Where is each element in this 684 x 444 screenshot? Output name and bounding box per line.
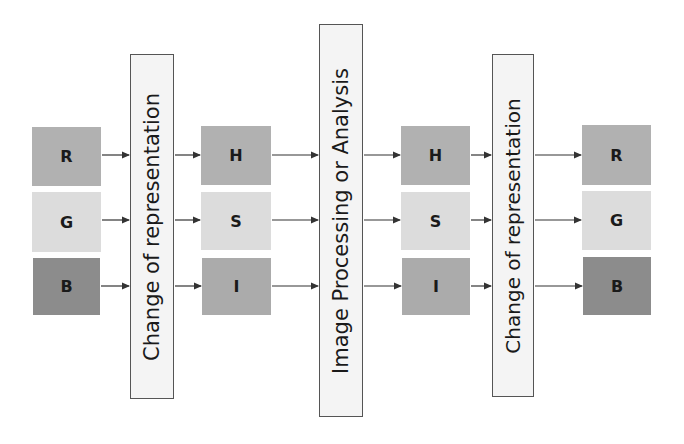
hsi-after-channel-s: S bbox=[401, 192, 470, 250]
input-channel-b: B bbox=[33, 258, 100, 315]
channel-label: G bbox=[610, 211, 623, 230]
stage-3-label: Change of representation bbox=[501, 98, 525, 353]
output-channel-g: G bbox=[582, 191, 651, 250]
channel-label: B bbox=[611, 277, 623, 296]
output-channel-b: B bbox=[583, 257, 651, 315]
image-processing-stage: Image Processing or Analysis bbox=[319, 24, 363, 417]
channel-label: B bbox=[60, 277, 72, 296]
channel-label: R bbox=[60, 147, 72, 166]
stage-2-label: Image Processing or Analysis bbox=[329, 68, 353, 374]
channel-label: H bbox=[229, 146, 242, 165]
channel-label: R bbox=[610, 146, 622, 165]
channel-label: G bbox=[60, 213, 73, 232]
output-channel-r: R bbox=[582, 125, 651, 185]
hsi-after-channel-h: H bbox=[401, 126, 470, 185]
channel-label: I bbox=[433, 277, 439, 296]
hsi-before-channel-s: S bbox=[201, 192, 271, 250]
channel-label: I bbox=[234, 277, 240, 296]
hsi-before-channel-i: I bbox=[202, 258, 271, 315]
hsi-before-channel-h: H bbox=[201, 126, 271, 185]
channel-label: S bbox=[230, 212, 242, 231]
input-channel-r: R bbox=[32, 127, 101, 186]
channel-label: H bbox=[429, 146, 442, 165]
channel-label: S bbox=[430, 212, 442, 231]
stage-1-label: Change of representation bbox=[140, 92, 164, 360]
hsi-after-channel-i: I bbox=[402, 258, 470, 315]
input-channel-g: G bbox=[32, 192, 101, 252]
change-of-representation-stage-1: Change of representation bbox=[130, 54, 174, 399]
change-of-representation-stage-2: Change of representation bbox=[492, 54, 534, 397]
